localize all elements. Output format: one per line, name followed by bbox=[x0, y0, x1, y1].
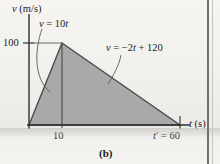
plot-canvas bbox=[0, 0, 220, 164]
page-edge-line-secondary bbox=[212, 0, 213, 164]
rising-equation-label: v = 10t bbox=[39, 19, 68, 30]
x-tick-label-tprime: t′ = 60 bbox=[153, 131, 180, 142]
x-tick-label-10: 10 bbox=[53, 131, 64, 142]
y-tick-label-100: 100 bbox=[3, 38, 19, 49]
shaded-area-under-curve bbox=[29, 43, 180, 125]
y-axis-label: v (m/s) bbox=[12, 4, 41, 15]
falling-equation-label: v = −2t + 120 bbox=[106, 43, 163, 54]
x-axis-label: t (s) bbox=[189, 119, 206, 130]
figure-caption: (b) bbox=[99, 148, 112, 159]
velocity-time-graph-figure: v (m/s) 100 v = 10t v = −2t + 120 10 t′ … bbox=[0, 0, 220, 164]
page-edge-line bbox=[207, 0, 209, 164]
